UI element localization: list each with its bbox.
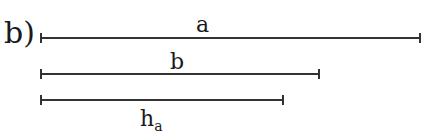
segment-h-a-label: ha: [140, 108, 163, 137]
segment-b-left-tick: [40, 69, 42, 79]
segment-a-left-tick: [40, 33, 42, 43]
segment-a-label: a: [196, 14, 209, 36]
segment-h-a: [40, 99, 284, 101]
segment-h-a-left-tick: [40, 95, 42, 105]
segment-a-right-tick: [419, 33, 421, 43]
segment-h-a-right-tick: [282, 95, 284, 105]
segment-b-label: b: [170, 51, 184, 73]
segment-a: [40, 37, 421, 39]
part-label: b): [4, 18, 35, 48]
segment-b-right-tick: [318, 69, 320, 79]
